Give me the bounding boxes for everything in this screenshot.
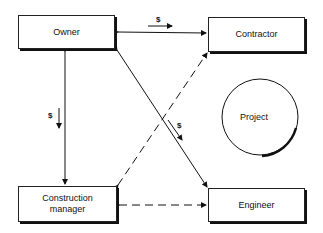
owner-node: Owner [18, 15, 115, 49]
money-label-owner-engineer: $ [177, 121, 181, 130]
contractor-node: Contractor [208, 17, 305, 52]
project-label: Project [240, 112, 268, 122]
construction-manager-label: Construction manager [42, 193, 93, 215]
engineer-node: Engineer [208, 188, 305, 222]
construction-manager-node: Construction manager [18, 186, 117, 222]
edge-cm-contractor [118, 53, 207, 185]
edge-owner-engineer [117, 50, 207, 187]
edge-owner-contractor [118, 32, 206, 33]
engineer-label: Engineer [238, 200, 274, 211]
money-label-owner-cm: $ [48, 111, 52, 120]
contractor-label: Contractor [235, 29, 277, 40]
owner-label: Owner [53, 27, 80, 38]
money-label-owner-contractor: $ [156, 15, 160, 24]
